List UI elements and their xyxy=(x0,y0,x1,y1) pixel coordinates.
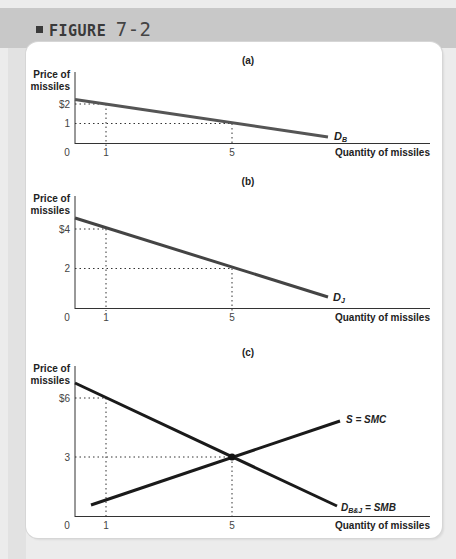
panel-a-ylabel-line1: Price of xyxy=(33,69,70,80)
panel-a-xtick-5: 5 xyxy=(229,147,235,158)
panel-c-xlabel: Quantity of missiles xyxy=(335,520,430,531)
panel-c-ylabel-line1: Price of xyxy=(33,363,70,374)
panel-b-ylabel-line1: Price of xyxy=(33,193,70,204)
panel-c-demand-curve-smb xyxy=(75,383,337,506)
panel-a-title: (a) xyxy=(242,55,254,66)
panel-a-xtick-1: 1 xyxy=(103,147,109,158)
panel-a-ylabel-line2: missiles xyxy=(31,81,71,92)
panel-c-demand-label: DB&J = SMB xyxy=(341,502,396,514)
panel-c-xtick-5: 5 xyxy=(229,520,235,531)
panel-b-curve-label: DJ xyxy=(333,291,346,304)
panel-b-demand-curve-dj xyxy=(75,218,328,297)
panel-a-ytick-2: $2 xyxy=(59,99,71,110)
panel-a-curve-label: DB xyxy=(334,130,347,143)
panel-c: (c) Price of missiles $6 3 0 1 5 Quantit… xyxy=(31,347,431,531)
panel-b-xtick-5: 5 xyxy=(229,312,235,323)
panel-a-xtick-0: 0 xyxy=(64,147,70,158)
panel-a-demand-curve-db xyxy=(75,100,328,138)
panel-a-xlabel: Quantity of missiles xyxy=(335,147,430,158)
panel-b-xtick-0: 0 xyxy=(64,312,70,323)
panel-c-equilibrium-point xyxy=(229,454,236,461)
panel-c-xtick-1: 1 xyxy=(103,520,109,531)
panel-b-xtick-1: 1 xyxy=(103,312,109,323)
panel-c-ytick-3: 3 xyxy=(64,452,70,463)
panel-b: (b) Price of missiles $4 2 0 1 5 Quantit… xyxy=(31,176,431,323)
panel-b-xlabel: Quantity of missiles xyxy=(335,312,430,323)
panel-c-ytick-6: $6 xyxy=(59,393,71,404)
panel-a-ytick-1: 1 xyxy=(64,118,70,129)
panel-c-supply-curve-smc xyxy=(91,421,340,505)
panel-c-ylabel-line2: missiles xyxy=(31,375,71,386)
panel-b-ylabel-line2: missiles xyxy=(31,205,71,216)
panel-c-title: (c) xyxy=(242,347,254,358)
figure-charts: (a) Price of missiles $2 1 0 1 5 Quantit… xyxy=(0,0,456,559)
panel-a: (a) Price of missiles $2 1 0 1 5 Quantit… xyxy=(31,55,431,158)
panel-b-ytick-4: $4 xyxy=(59,224,71,235)
panel-b-ytick-2: 2 xyxy=(64,263,70,274)
panel-c-xtick-0: 0 xyxy=(64,520,70,531)
panel-b-title: (b) xyxy=(242,176,255,187)
panel-c-supply-label: S = SMC xyxy=(346,414,387,425)
